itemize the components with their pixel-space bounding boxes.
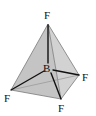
atom-label-b: B <box>43 62 50 74</box>
atom-label-f-right: F <box>82 71 88 83</box>
atom-label-f-top: F <box>44 9 50 21</box>
atom-label-f-left: F <box>4 92 10 104</box>
tetrahedron-diagram: B F F F F <box>0 0 96 116</box>
atom-label-f-bottom: F <box>58 102 64 114</box>
